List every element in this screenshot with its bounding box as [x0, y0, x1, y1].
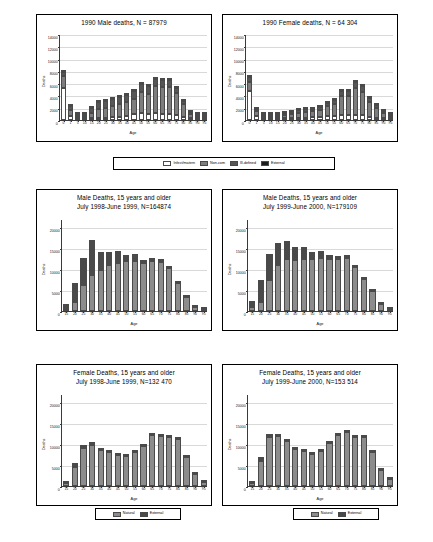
bar-segment — [309, 454, 315, 486]
bar-segment — [325, 106, 330, 116]
y-tick-mark — [244, 72, 246, 73]
y-tick-label: 8000 — [50, 73, 60, 77]
x-tick-mark — [355, 311, 356, 313]
y-tick-mark-minor — [59, 90, 60, 91]
y-tick-mark — [244, 96, 246, 97]
x-tick-label: 20 — [259, 488, 263, 491]
y-tick-mark — [60, 312, 62, 313]
x-tick-mark — [92, 120, 93, 122]
bar-segment — [318, 451, 324, 486]
x-tick-mark — [187, 311, 188, 313]
x-tick-label: 65 — [336, 313, 340, 316]
bar-segment — [309, 252, 315, 259]
chart-title-line: July 1999-June 2000, N=179109 — [223, 203, 397, 212]
bar — [117, 95, 122, 120]
y-tick-mark-minor — [245, 41, 246, 42]
chart-title-female-1990: 1990 Female deaths, N = 64 304 — [223, 19, 397, 28]
x-tick-mark — [66, 311, 67, 313]
x-tick-mark — [381, 486, 382, 488]
bar — [183, 295, 189, 311]
legend-swatch — [113, 512, 121, 517]
bar-segment — [124, 95, 129, 102]
bar-segment — [344, 432, 350, 486]
bar — [175, 281, 181, 311]
y-tick-label: 10000 — [50, 446, 62, 450]
x-tick-mark — [118, 311, 119, 313]
y-tick-mark — [244, 60, 246, 61]
y-tick-label: 5000 — [238, 292, 248, 296]
bar-segment — [106, 452, 112, 486]
x-tick-mark — [304, 486, 305, 488]
chart-title-line: Female Deaths, 15 years and older — [37, 369, 211, 378]
legend-item: Ill-defined — [230, 161, 256, 166]
x-tick-mark — [204, 120, 205, 122]
x-tick-mark — [306, 120, 307, 122]
bar — [258, 280, 264, 311]
y-tick-label: 14000 — [234, 36, 246, 40]
x-tick-mark — [126, 486, 127, 488]
chart-panel-female-1999-2000: Female Deaths, 15 years and olderJuly 19… — [222, 364, 398, 506]
y-tick-mark-minor — [247, 260, 248, 261]
y-tick-label: 0 — [56, 122, 60, 126]
y-tick-mark — [246, 445, 248, 446]
bar-segment — [166, 437, 172, 486]
bar — [266, 434, 272, 486]
bar — [166, 266, 172, 311]
x-tick-mark — [109, 486, 110, 488]
x-tick-mark — [327, 120, 328, 122]
bar-segment — [61, 76, 66, 87]
x-tick-mark — [204, 486, 205, 488]
bar-segment — [317, 110, 322, 117]
x-tick-mark — [348, 120, 349, 122]
x-tick-mark — [269, 311, 270, 313]
chart-title-male-1998-1999: Male Deaths, 15 years and olderJuly 1998… — [37, 194, 211, 211]
y-tick-mark — [58, 60, 60, 61]
y-axis-label: Deaths — [228, 439, 232, 450]
y-tick-mark — [58, 35, 60, 36]
bar-segment — [367, 102, 372, 117]
y-tick-label: 0 — [58, 313, 62, 317]
bar-segment — [160, 87, 165, 113]
bar — [106, 252, 112, 311]
x-tick-label: 55 — [332, 122, 336, 125]
bar-segment — [139, 113, 144, 120]
bar — [360, 84, 365, 120]
y-tick-label: 14000 — [48, 36, 60, 40]
chart-panel-female-1998-1999: Female Deaths, 15 years and olderJuly 19… — [36, 364, 212, 506]
x-tick-label: 95 — [388, 313, 392, 316]
x-tick-mark — [341, 120, 342, 122]
x-tick-mark — [376, 120, 377, 122]
bar-segment — [183, 457, 189, 486]
bar-segment — [301, 451, 307, 486]
bar-segment — [146, 94, 151, 114]
figure-root: 1990 Male deaths, N = 879790200040006000… — [0, 0, 433, 542]
y-tick-mark-minor — [59, 115, 60, 116]
x-tick-label: 75 — [353, 313, 357, 316]
y-tick-label: 20000 — [50, 405, 62, 409]
chart-title-line: 1990 Male deaths, N = 87979 — [37, 19, 211, 28]
y-tick-mark-minor — [245, 78, 246, 79]
x-tick-label: 55 — [319, 488, 323, 491]
y-tick-mark — [60, 466, 62, 467]
x-tick-label: 40 — [293, 488, 297, 491]
bar — [275, 243, 281, 311]
bar-segment — [258, 280, 264, 302]
bar — [332, 98, 337, 120]
x-tick-label: 95 — [389, 122, 393, 125]
y-tick-mark — [60, 445, 62, 446]
x-tick-label: 35 — [285, 313, 289, 316]
bar-segment — [80, 258, 86, 285]
y-tick-label: 4000 — [236, 98, 246, 102]
bar — [367, 96, 372, 120]
x-tick-label: 35 — [285, 488, 289, 491]
x-tick-mark — [390, 311, 391, 313]
bar — [153, 77, 158, 120]
y-tick-label: 20000 — [50, 230, 62, 234]
x-tick-label: 20 — [73, 313, 77, 316]
x-tick-label: 65 — [336, 488, 340, 491]
y-tick-mark-minor — [61, 239, 62, 240]
bar-segment — [374, 108, 379, 118]
gridline — [246, 35, 393, 36]
bar-segment — [292, 260, 298, 311]
bar — [124, 93, 129, 120]
